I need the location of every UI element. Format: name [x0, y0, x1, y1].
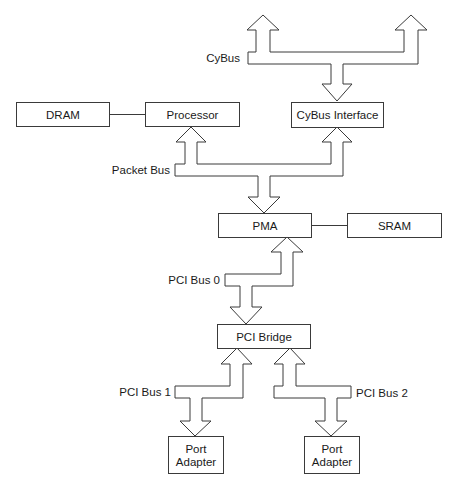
pci-bus-0-arrow: [225, 237, 303, 324]
port-adapter-2-line2: Adapter: [312, 456, 352, 468]
port-adapter-1-line1: Port: [185, 443, 207, 455]
pci-bus-1-arrow: [175, 348, 252, 436]
pci-bridge-box: PCI Bridge: [218, 325, 311, 349]
port-adapter-2-box: Port Adapter: [305, 437, 360, 474]
pci-bus-1-label: PCI Bus 1: [119, 386, 171, 398]
cybus-interface-label: CyBus Interface: [297, 109, 379, 121]
pci-bus-2: PCI Bus 2: [274, 348, 408, 436]
sram-label: SRAM: [378, 220, 411, 232]
cybus-label: CyBus: [206, 52, 240, 64]
port-adapter-1-line2: Adapter: [176, 456, 216, 468]
pci-bus-1: PCI Bus 1: [119, 348, 252, 436]
architecture-diagram: CyBus DRAM Processor CyBus Interface Pac…: [0, 0, 454, 486]
packet-bus-label: Packet Bus: [112, 164, 170, 176]
processor-box: Processor: [146, 103, 240, 127]
dram-label: DRAM: [46, 109, 80, 121]
packet-bus: Packet Bus: [112, 127, 352, 213]
pci-bus-0-label: PCI Bus 0: [168, 274, 220, 286]
cybus-bus-arrow: [247, 15, 427, 101]
pma-label: PMA: [253, 220, 278, 232]
packet-bus-arrow: [175, 127, 352, 213]
cybus-interface-box: CyBus Interface: [292, 103, 384, 128]
port-adapter-2-line1: Port: [321, 443, 343, 455]
processor-label: Processor: [167, 109, 219, 121]
port-adapter-1-box: Port Adapter: [169, 437, 224, 474]
sram-box: SRAM: [348, 214, 442, 238]
dram-box: DRAM: [17, 103, 110, 127]
pci-bus-2-arrow: [274, 348, 351, 436]
pci-bridge-label: PCI Bridge: [236, 331, 292, 343]
cybus: CyBus: [206, 15, 427, 101]
pci-bus-2-label: PCI Bus 2: [356, 387, 408, 399]
pma-box: PMA: [219, 214, 312, 238]
pci-bus-0: PCI Bus 0: [168, 237, 303, 324]
